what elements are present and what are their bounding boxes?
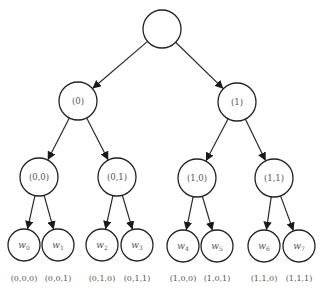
leaf-caption: (0,0,0) [11, 274, 38, 283]
level2-node: (0,0) [20, 158, 58, 196]
leaf-node: w5 [201, 230, 233, 262]
edge-arrow [106, 196, 113, 229]
node-label: (0) [72, 96, 84, 106]
binary-tree-diagram: (0)(1)(0,0)(0,1)(1,0)(1,1)w0(0,0,0)w1(0,… [0, 0, 325, 290]
level1-node: (1) [218, 83, 256, 121]
node-label: (1) [231, 97, 243, 107]
edge-arrow [281, 196, 294, 231]
leaf-caption: (1,0,1) [204, 274, 231, 283]
leaf-caption: (1,1,0) [251, 274, 278, 283]
edge-arrow [93, 41, 148, 88]
node-label: (0,0) [29, 172, 49, 182]
level2-node: (1,0) [178, 159, 216, 197]
edge-arrow [87, 118, 108, 160]
leaf-node: w3 [121, 229, 153, 261]
node-label: (1,1) [264, 173, 284, 183]
leaf-caption: (1,0,0) [170, 274, 197, 283]
leaf-node: w6 [248, 230, 280, 262]
level2-node: (0,1) [98, 158, 136, 196]
leaf-node: w7 [283, 230, 315, 262]
edge-arrow [266, 197, 271, 230]
edge-arrow [202, 196, 212, 230]
edge-arrow [206, 119, 228, 161]
edge-arrow [122, 195, 132, 229]
edge-arrow [44, 195, 53, 229]
edge-arrow [245, 119, 265, 160]
edges [28, 41, 294, 230]
root-node [143, 10, 181, 48]
node-circle [143, 10, 181, 48]
leaf-node: w2 [86, 229, 118, 261]
leaf-node: w4 [167, 230, 199, 262]
leaf-node: w1 [42, 229, 74, 261]
edge-arrow [176, 42, 223, 88]
node-label: (1,0) [187, 173, 207, 183]
node-label: (0,1) [107, 172, 127, 182]
level2-node: (1,1) [255, 159, 293, 197]
level1-node: (0) [59, 82, 97, 120]
edge-arrow [186, 197, 193, 230]
leaf-caption: (1,1,1) [286, 274, 313, 283]
leaf-caption: (0,1,1) [124, 274, 151, 283]
edge-arrow [28, 196, 35, 229]
leaf-caption: (0,0,1) [45, 274, 72, 283]
edge-arrow [48, 118, 69, 160]
leaf-node: w0 [8, 229, 40, 261]
leaf-caption: (0,1,0) [89, 274, 116, 283]
